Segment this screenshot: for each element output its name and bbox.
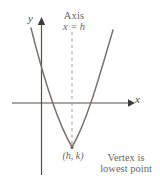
vertex-coordinate-label: (h, k) (52, 151, 94, 162)
x-axis (12, 99, 135, 107)
x-axis-label: x (135, 94, 140, 106)
vertex-note-line-2: lowest point (94, 163, 158, 174)
vertex-description-note: Vertex is lowest point (94, 152, 158, 174)
axis-caption-line-1: Axis (50, 10, 98, 21)
axis-caption-line-2: x = h (50, 21, 98, 32)
axis-of-symmetry-caption: Axis x = h (50, 10, 98, 32)
x-axis-arrowhead (128, 99, 135, 107)
y-axis-arrowhead (38, 17, 45, 25)
vertex-note-line-1: Vertex is (94, 152, 158, 163)
y-axis (38, 17, 45, 175)
vertex-point-marker (70, 146, 73, 149)
parabola-figure: y x Axis x = h (h, k) Vertex is lowest p… (0, 0, 160, 189)
y-axis-label: y (28, 13, 33, 25)
